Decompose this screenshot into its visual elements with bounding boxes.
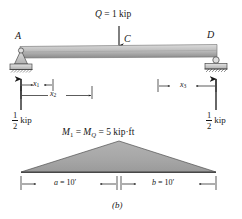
point-label-d: D — [207, 30, 214, 40]
reaction-unit-right: kip — [212, 116, 226, 125]
load-symbol: Q — [95, 9, 102, 19]
roller-support-right — [205, 57, 228, 72]
beam-moment-diagram — [0, 0, 242, 219]
dimension-label-x3: x3 — [180, 81, 186, 90]
figure-caption: (b) — [112, 201, 123, 210]
span-label-a: a = 10′ — [54, 179, 76, 187]
applied-load-label: Q = 1 kip — [95, 10, 131, 20]
point-label-c: C — [124, 34, 131, 44]
span-label-b: b = 10′ — [152, 179, 174, 187]
beam — [20, 45, 217, 59]
reaction-label-left: 1 2 kip — [12, 111, 32, 130]
moment-diagram-triangle — [21, 141, 216, 172]
load-unit: kip — [119, 9, 131, 19]
dimension-label-x2: x2 — [50, 90, 56, 99]
dimension-x3 — [158, 79, 216, 92]
dimension-x2 — [21, 86, 92, 99]
point-label-a: A — [15, 31, 21, 41]
reaction-label-right: 1 2 kip — [206, 111, 226, 130]
reaction-unit-left: kip — [18, 116, 32, 125]
dimension-label-x1: x1 — [33, 80, 39, 89]
moment-value-label: M1 = MQ = 5 kip·ft — [62, 128, 134, 138]
